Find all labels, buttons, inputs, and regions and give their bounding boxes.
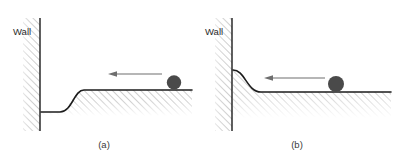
velocity-arrow — [108, 71, 162, 77]
ball — [167, 75, 181, 89]
panel-caption-b: (b) — [291, 139, 303, 150]
ball — [328, 76, 344, 92]
ground-hatching — [41, 90, 192, 118]
panel-b: Wall (b) — [197, 0, 394, 167]
panel-a-diagram: Wall (a) — [0, 0, 197, 167]
panel-caption-a: (a) — [98, 139, 110, 150]
velocity-arrow — [264, 75, 325, 81]
physics-figure: Wall (a) — [0, 0, 394, 167]
wall-label: Wall — [205, 26, 223, 37]
panel-a: Wall (a) — [0, 0, 197, 167]
panel-b-diagram: Wall (b) — [197, 0, 394, 167]
wall-label: Wall — [13, 26, 31, 37]
ground-surface — [233, 70, 391, 92]
